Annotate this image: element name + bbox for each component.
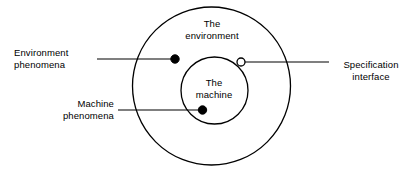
outer-region-label: The environment <box>172 18 252 42</box>
diagram-canvas: The environment The machine Environment … <box>0 0 415 176</box>
inner-region-label-line2: machine <box>182 89 246 101</box>
annotation-machine-phenomena-line2: phenomena <box>48 110 114 122</box>
outer-region-label-line1: The <box>172 18 252 30</box>
annotation-specification-interface-label: Specification interface <box>332 59 410 83</box>
annotation-environment-phenomena-label: Environment phenomena <box>14 47 94 71</box>
inner-region-label-line1: The <box>182 77 246 89</box>
machine-phenomena-dot-icon <box>198 106 206 114</box>
annotation-specification-interface-line1: Specification <box>332 59 410 71</box>
annotation-environment-phenomena-line2: phenomena <box>14 59 94 71</box>
environment-phenomena-dot-icon <box>171 55 179 63</box>
annotation-machine-phenomena-line1: Machine <box>48 98 114 110</box>
annotation-environment-phenomena-line1: Environment <box>14 47 94 59</box>
annotation-specification-interface-line2: interface <box>332 71 410 83</box>
outer-region-label-line2: environment <box>172 30 252 42</box>
specification-interface-dot-icon <box>237 58 245 66</box>
inner-region-label: The machine <box>182 77 246 101</box>
annotation-machine-phenomena-label: Machine phenomena <box>48 98 114 122</box>
